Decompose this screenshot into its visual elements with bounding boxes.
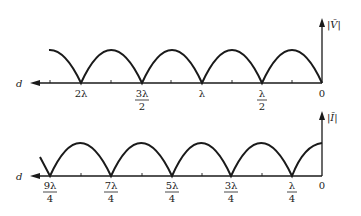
- svg-text:4: 4: [169, 193, 175, 204]
- left-arrow-icon: [30, 173, 40, 179]
- svg-text:4: 4: [289, 193, 295, 204]
- voltage-magnitude-plot: d |V̄| 2λ 3λ 2 λ λ 2 0: [16, 18, 341, 112]
- current-curve: [40, 143, 322, 176]
- tick-label-3lambda-4: 3λ 4: [224, 180, 238, 204]
- svg-text:3λ: 3λ: [225, 180, 238, 191]
- tick-label-lambda: λ: [199, 88, 206, 99]
- tick-label-2lambda: 2λ: [75, 88, 88, 99]
- tick-label-zero-bottom: 0: [319, 180, 325, 191]
- tick-label-3lambda-2-num: 3λ: [136, 88, 149, 99]
- tick-label-lambda-2-num: λ: [259, 88, 266, 99]
- tick-label-3lambda-2-den: 2: [139, 101, 145, 112]
- left-arrow-icon: [30, 80, 40, 86]
- tick-label-lambda-4: λ 4: [287, 180, 297, 204]
- voltage-curve: [49, 50, 322, 83]
- standing-wave-diagram: d |V̄| 2λ 3λ 2 λ λ 2 0 d |Ī| 9λ 4: [0, 0, 361, 216]
- svg-text:5λ: 5λ: [166, 180, 179, 191]
- current-magnitude-plot: d |Ī| 9λ 4 7λ 4 5λ 4 3λ 4 λ 4 0: [16, 111, 338, 204]
- tick-label-5lambda-4: 5λ 4: [165, 180, 179, 204]
- d-label-bottom: d: [16, 171, 22, 182]
- up-arrow-icon: [319, 111, 325, 120]
- tick-label-9lambda-4: 9λ 4: [43, 180, 57, 204]
- tick-label-zero-top: 0: [319, 88, 325, 99]
- svg-text:4: 4: [228, 193, 234, 204]
- svg-text:7λ: 7λ: [105, 180, 118, 191]
- v-axis-label: |V̄|: [327, 19, 341, 31]
- svg-text:λ: λ: [289, 180, 296, 191]
- tick-label-7lambda-4: 7λ 4: [104, 180, 118, 204]
- up-arrow-icon: [319, 18, 325, 27]
- svg-text:9λ: 9λ: [44, 180, 57, 191]
- svg-text:4: 4: [108, 193, 114, 204]
- i-axis-label: |Ī|: [327, 112, 338, 124]
- tick-label-lambda-2-den: 2: [259, 101, 265, 112]
- svg-text:4: 4: [47, 193, 53, 204]
- d-label-top: d: [16, 78, 22, 89]
